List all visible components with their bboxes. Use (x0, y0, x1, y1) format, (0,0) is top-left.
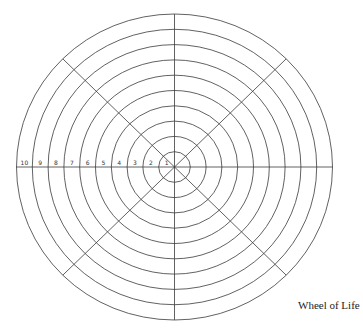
spoke-6 (63, 59, 175, 167)
scale-label-9: 9 (38, 159, 42, 166)
scale-label-4: 4 (117, 159, 121, 166)
scale-label-1: 1 (165, 159, 169, 166)
scale-label-8: 8 (54, 159, 58, 166)
scale-label-5: 5 (101, 159, 105, 166)
wheel-of-life-diagram: 10987654321 (0, 0, 363, 332)
scale-label-2: 2 (149, 159, 153, 166)
spoke-4 (63, 167, 175, 275)
scale-label-7: 7 (70, 159, 74, 166)
spoke-8 (175, 59, 287, 167)
scale-label-6: 6 (86, 159, 90, 166)
scale-label-10: 10 (21, 159, 29, 166)
spokes (17, 14, 333, 320)
diagram-title: Wheel of Life (298, 299, 360, 311)
spoke-2 (175, 167, 287, 275)
scale-labels: 10987654321 (21, 159, 169, 166)
scale-label-3: 3 (133, 159, 137, 166)
